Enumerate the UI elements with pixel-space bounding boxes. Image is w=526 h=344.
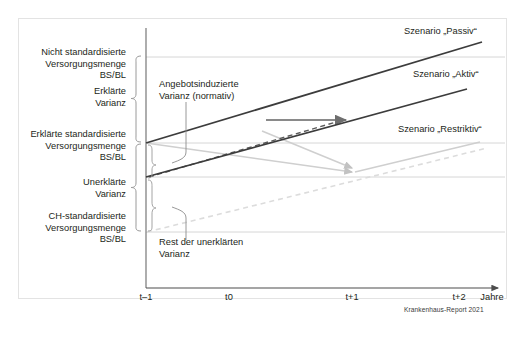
callout-angebotsinduzierte: Angebotsinduzierte Varianz (normativ) [159,79,279,102]
label-ch-standardisierte: CH-standardisierte Versorgungsmenge BS/B… [10,211,126,246]
x-axis-label: Jahre [475,292,509,302]
label-nicht-standardisierte: Nicht standardisierte Versorgungsmenge B… [14,47,126,82]
x-tick-t-plus-1: t+1 [337,292,367,302]
scenario-label-restriktiv: Szenario „Restriktiv“ [398,124,482,134]
x-tick-t-minus-1: t–1 [131,292,161,302]
callout-leaders [172,102,186,240]
scenario-label-aktiv: Szenario „Aktiv“ [413,69,479,79]
figure-container: Nicht standardisierte Versorgungsmenge B… [0,0,526,344]
brace-group-outer [131,56,141,231]
figure-credit: Krankenhaus-Report 2021 [404,306,484,313]
x-tick-t-plus-2: t+2 [444,292,474,302]
series-restriktiv [146,131,480,172]
label-erklaerte-standardisierte: Erklärte standardisierte Versorgungsmeng… [8,129,126,164]
scenario-label-passiv: Szenario „Passiv“ [404,26,477,36]
label-erklaerte-varianz: Erklärte Varianz [14,86,126,109]
brace-group-inner [148,145,156,231]
label-unerklaerte-varianz: Unerklärte Varianz [14,177,126,200]
x-tick-t0: t0 [214,292,244,302]
series-rest-unerklaerte [147,148,487,232]
callout-rest-unerklaerte: Rest der unerklärten Varianz [159,237,279,260]
